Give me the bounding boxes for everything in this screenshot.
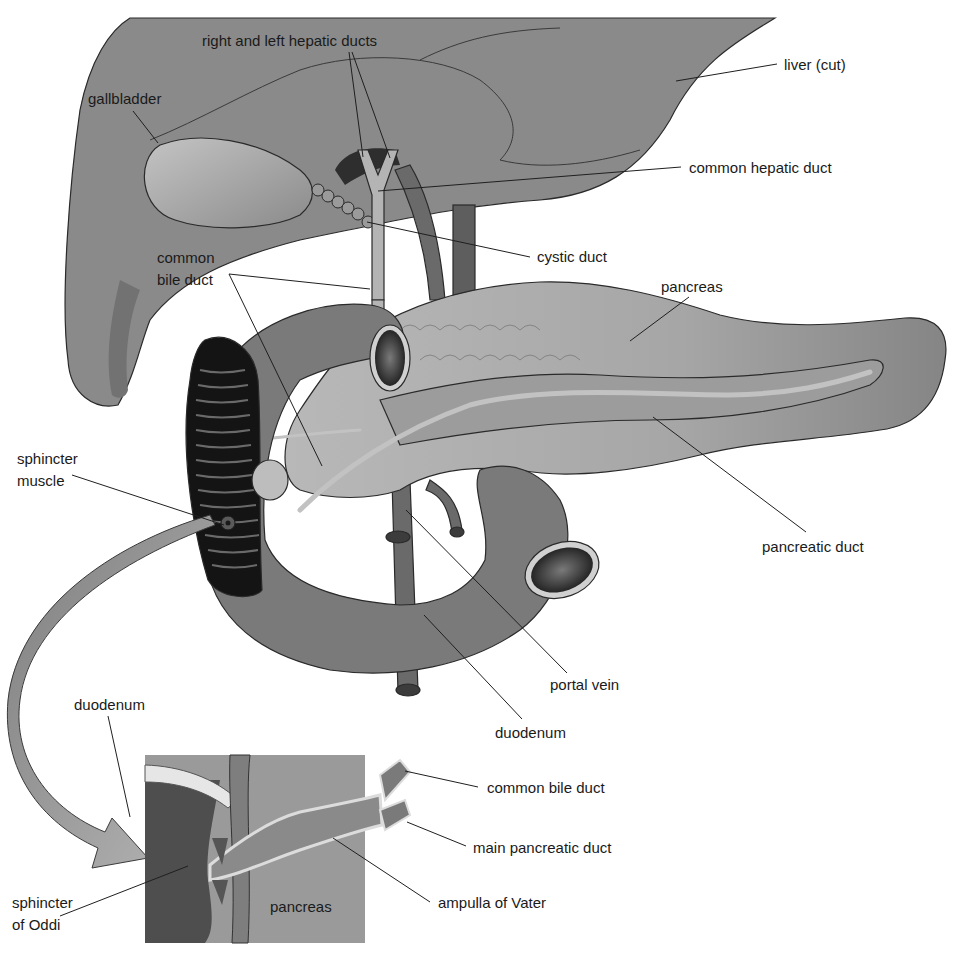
label-right-left-hepatic-ducts: right and left hepatic ducts (202, 32, 377, 49)
label-pancreas: pancreas (661, 278, 723, 295)
label-portal-vein: portal vein (550, 676, 619, 693)
label-cystic-duct: cystic duct (537, 248, 608, 265)
anatomy-diagram: right and left hepatic ducts liver (cut)… (0, 0, 953, 963)
label-sphincter-of-oddi-line1: sphincter (12, 894, 73, 911)
label-ampulla-of-vater: ampulla of Vater (438, 894, 546, 911)
label-sphincter-muscle-line1: sphincter (17, 450, 78, 467)
label-gallbladder: gallbladder (88, 90, 161, 107)
label-common-bile-duct-line2: bile duct (157, 271, 214, 288)
leader-line-common-bile-duct-upper (229, 274, 370, 289)
leader-line-cystic-duct (367, 222, 530, 257)
label-common-bile-duct-inset: common bile duct (487, 779, 605, 796)
leader-line-main-pancreatic-duct (407, 822, 466, 846)
label-common-hepatic-duct: common hepatic duct (689, 159, 832, 176)
label-duodenum-inset: duodenum (74, 696, 145, 713)
label-sphincter-muscle-line2: muscle (17, 472, 65, 489)
label-common-bile-duct-line1: common (157, 249, 215, 266)
label-sphincter-of-oddi-line2: of Oddi (12, 916, 60, 933)
label-pancreatic-duct: pancreatic duct (762, 538, 865, 555)
label-pancreas-inset: pancreas (270, 898, 332, 915)
label-duodenum: duodenum (495, 724, 566, 741)
label-liver-cut: liver (cut) (784, 56, 846, 73)
leader-line-duodenum-inset (108, 716, 130, 817)
label-main-pancreatic-duct: main pancreatic duct (473, 839, 612, 856)
leader-line-common-bile-duct-inset (405, 771, 478, 787)
